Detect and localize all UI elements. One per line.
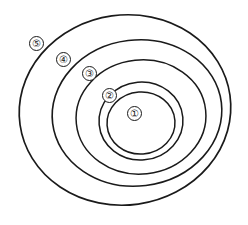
rings-group xyxy=(7,1,243,219)
ring-1-circle xyxy=(105,90,177,157)
nested-circles-diagram xyxy=(0,0,248,225)
figure-root: ⑤ ④ ③ ② ① xyxy=(0,0,248,225)
ring-label-4: ④ xyxy=(56,52,71,67)
ring-label-1: ① xyxy=(127,106,142,121)
ring-label-3: ③ xyxy=(82,66,97,81)
ring-label-5: ⑤ xyxy=(29,36,44,51)
ring-label-2: ② xyxy=(102,88,117,103)
